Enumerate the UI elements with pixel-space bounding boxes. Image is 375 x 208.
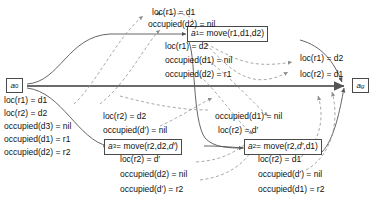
- a1-effect-2: occupied(d1) = nil: [165, 56, 232, 65]
- action-a3-signature: = move(r2,d2,: [116, 142, 169, 151]
- start-literal-2: loc(r2) = d2: [4, 109, 47, 118]
- a2-precondition-2: loc(r2) = d′: [218, 126, 258, 135]
- node-start-subscript: 0: [15, 83, 18, 89]
- node-goal-ag[interactable]: ag: [352, 78, 369, 93]
- action-a3-signature-end: ): [175, 142, 178, 151]
- a2-precondition-1: occupied(d1) = nil: [215, 112, 282, 121]
- start-literal-4: occupied(d1) = r1: [4, 135, 70, 144]
- a3-precondition-2-text: occupied(d′) = nil: [103, 125, 167, 135]
- goal-condition-2: loc(r2) = d1: [300, 70, 343, 79]
- start-literal-1: loc(r1) = d1: [4, 96, 47, 105]
- node-action-a3[interactable]: a3 = move(r2,d2,d′): [104, 139, 182, 155]
- node-action-a2[interactable]: a2 = move(r2,d′,d1): [244, 139, 322, 155]
- action-a2-signature: = move(r2,: [256, 142, 297, 151]
- start-literal-3: occupied(d3) = nil: [4, 122, 71, 131]
- goal-condition-1: loc(r1) = d2: [300, 54, 343, 63]
- action-a2-signature-end: ,d1): [303, 142, 318, 151]
- a1-effect-1: loc(r1) = d2: [165, 42, 208, 51]
- action-a1-signature: = move(r1,d1,d2): [199, 29, 264, 38]
- a1-precondition-1: loc(r1) = d1: [152, 8, 195, 17]
- ordering-edges: [27, 34, 344, 152]
- start-literal-5: occupied(d2) = r2: [4, 148, 70, 157]
- node-goal-subscript: g: [361, 83, 364, 89]
- a3-precondition-1: loc(r2) = d2: [103, 112, 146, 121]
- a3-effect-1: loc(r2) = d′: [120, 155, 160, 164]
- a1-precondition-2: occupied(d2) = nil: [148, 20, 215, 29]
- a3-effect-2: occupied(d2) = nil: [120, 170, 187, 179]
- a1-effect-3: occupied(d2) = r1: [165, 70, 231, 79]
- a2-effect-1: loc(r2) = d1: [258, 155, 301, 164]
- a2-effect-2: occupied(d′) = nil: [258, 170, 322, 179]
- node-start-a0[interactable]: a0: [6, 78, 23, 93]
- a3-effect-3: occupied(d′) = r2: [120, 185, 183, 194]
- a3-precondition-2: occupied(d′) = nil: [103, 126, 167, 135]
- plan-space-diagram: a0 ag a1 = move(r1,d1,d2) a3 = move(r2,d…: [0, 0, 375, 208]
- a2-effect-3: occupied(d1) = r2: [258, 185, 324, 194]
